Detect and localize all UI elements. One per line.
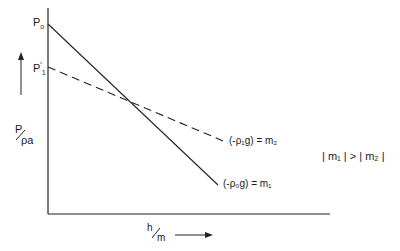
relation-annotation: | m₁ | > | m₂ |: [322, 150, 385, 162]
line2-label: (-ρ₁g) = m₂: [229, 135, 277, 146]
y-arrowhead-icon: [18, 52, 24, 60]
x-arrowhead-icon: [205, 232, 213, 238]
xlabel-num: h: [147, 222, 153, 233]
line1-label: (-ρ₀g) = m₁: [223, 178, 272, 189]
ylabel-den: ρa: [21, 134, 33, 146]
xlabel-den: m: [157, 232, 165, 243]
p0-label: Po: [33, 16, 44, 30]
line-m1-solid: [48, 24, 218, 185]
p1-label: P′1: [33, 60, 46, 76]
line-m2-dashed: [48, 67, 228, 143]
plot-canvas: [0, 0, 400, 251]
